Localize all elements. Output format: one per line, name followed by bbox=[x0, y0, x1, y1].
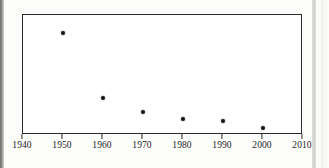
data-point bbox=[141, 110, 145, 114]
x-axis-tick-label: 1950 bbox=[52, 140, 71, 151]
data-point bbox=[221, 119, 225, 123]
scan-edge-right-outer bbox=[321, 0, 329, 168]
x-axis-tick-label: 1960 bbox=[92, 140, 111, 151]
scan-edge-left bbox=[0, 0, 4, 168]
x-axis-tick bbox=[61, 134, 62, 139]
x-axis-tick bbox=[141, 134, 142, 139]
x-axis-tick bbox=[21, 134, 22, 139]
x-axis-tick-label: 1970 bbox=[132, 140, 151, 151]
x-axis-tick-label: 2000 bbox=[252, 140, 271, 151]
plot-area bbox=[23, 15, 301, 133]
x-axis-tick bbox=[261, 134, 262, 139]
scan-edge-right-inner bbox=[312, 0, 316, 168]
x-axis-tick-label: 1940 bbox=[12, 140, 31, 151]
x-axis-tick bbox=[101, 134, 102, 139]
x-axis-tick bbox=[181, 134, 182, 139]
x-axis-tick-label: 1990 bbox=[212, 140, 231, 151]
x-axis-tick bbox=[221, 134, 222, 139]
data-point bbox=[181, 117, 185, 121]
chart-page: 19401950196019701980199020002010 bbox=[0, 0, 329, 168]
data-point bbox=[61, 31, 65, 35]
x-axis-tick bbox=[301, 134, 302, 139]
data-point bbox=[261, 126, 265, 130]
x-axis-tick-label: 2010 bbox=[292, 140, 311, 151]
plot-frame bbox=[22, 14, 302, 134]
data-point bbox=[101, 96, 105, 100]
x-axis-tick-label: 1980 bbox=[172, 140, 191, 151]
